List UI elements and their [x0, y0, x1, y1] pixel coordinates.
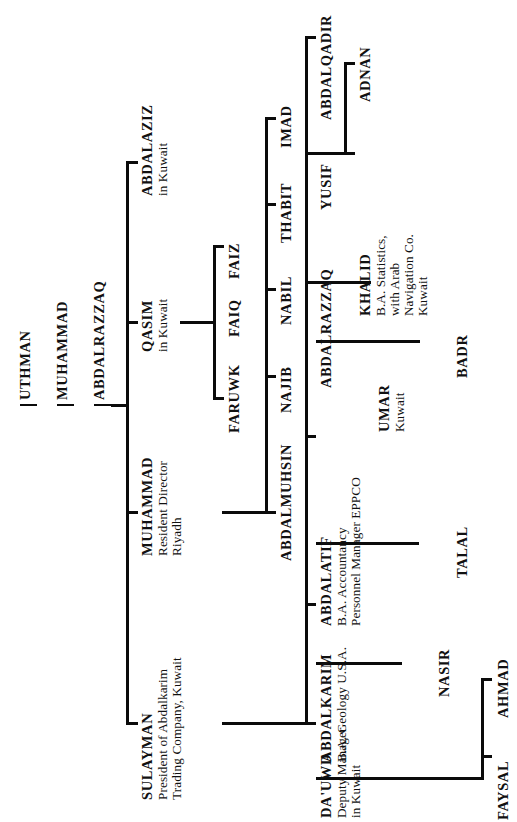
- tick-abdalaziz: [126, 161, 138, 164]
- tick-ahmad: [481, 678, 492, 681]
- label-badr: BADR: [455, 335, 471, 379]
- label-abdalatif: ABDALATIF B.A. Accountancy Personnel Man…: [319, 477, 363, 626]
- label-faiz: FAIZ: [227, 243, 243, 279]
- label-khalid: KHALID B.A. Statistics, with Arab Naviga…: [358, 234, 430, 316]
- tick-faruwk: [213, 397, 224, 400]
- tick-qasim: [126, 321, 138, 324]
- family-tree-diagram: UTHMAN MUHAMMAD ABDALRAZZAQ ABDALAZIZ in…: [0, 0, 517, 822]
- label-muhammad-root: MUHAMMAD: [55, 301, 71, 400]
- label-abdalrazzaq: ABDALRAZZAQ: [319, 269, 335, 388]
- tick-yusif: [305, 152, 316, 155]
- label-nasir: NASIR: [437, 649, 453, 697]
- tick-thabit: [265, 203, 276, 206]
- label-qasim: QASIM in Kuwait: [140, 299, 170, 352]
- label-faruwk: FARUWK: [227, 364, 243, 433]
- label-abdalqadir: ABDALQADIR: [319, 15, 335, 120]
- label-umar: UMAR Kuwait: [377, 384, 407, 432]
- label-ahmad: AHMAD: [496, 659, 512, 718]
- bracket-sulayman-children: [305, 36, 308, 724]
- tick-imad: [265, 117, 276, 120]
- tick-abdalatif: [305, 435, 316, 438]
- tick-abdalrazzaq: [305, 281, 316, 284]
- tick-khalid: [344, 152, 355, 155]
- label-abdalrazzaq-root: ABDALRAZZAQ: [92, 281, 108, 400]
- connector-qasim-to-children: [180, 321, 215, 324]
- connector-abdalrazzaq-root-stem: [94, 404, 111, 406]
- label-faiq: FAIQ: [227, 299, 243, 337]
- label-adnan: ADNAN: [358, 47, 374, 102]
- bracket-generation-1: [126, 161, 129, 724]
- tick-dauwd: [305, 722, 316, 725]
- connector-muhammad-root-stem: [57, 404, 74, 406]
- tick-faysal: [481, 755, 492, 758]
- label-thabit: THABIT: [279, 183, 295, 243]
- tick-abdalmuhsin: [265, 511, 276, 514]
- tick-abdalkarim: [305, 603, 316, 606]
- connector-uthman-stem: [20, 404, 37, 406]
- tick-adnan-top: [344, 62, 355, 65]
- bracket-dauwd-children: [481, 678, 484, 779]
- label-faysal: FAYSAL: [496, 761, 512, 820]
- bracket-yusif-children: [344, 62, 347, 154]
- tick-najib: [265, 375, 276, 378]
- label-dauwd: DA'UWD Deputy Manager in Kuwait: [319, 728, 363, 818]
- connector-yusif-to-children: [316, 152, 346, 155]
- tick-abdalqadir: [305, 36, 316, 39]
- label-muhammad: MUHAMMAD Resident Director Riyadh: [140, 457, 184, 556]
- label-yusif: YUSIF: [319, 163, 335, 210]
- connector-muhammad-to-children: [222, 511, 268, 514]
- bracket-qasim-children: [213, 245, 216, 399]
- label-nabil: NABIL: [279, 276, 295, 325]
- tick-faiz: [213, 245, 224, 248]
- bracket-muhammad-children: [265, 117, 268, 513]
- label-uthman: UTHMAN: [18, 330, 34, 400]
- label-sulayman: SULAYMAN President of Abdalkarim Trading…: [140, 657, 184, 800]
- label-najib: NAJIB: [279, 366, 295, 413]
- tick-nabil: [265, 288, 276, 291]
- label-talal: TALAL: [455, 526, 471, 578]
- connector-sulayman-to-children: [222, 722, 307, 725]
- label-abdalaziz: ABDALAZIZ in Kuwait: [140, 104, 170, 196]
- tick-sulayman: [126, 722, 138, 725]
- label-imad: IMAD: [279, 105, 295, 148]
- tick-muhammad: [126, 511, 138, 514]
- label-abdalmuhsin: ABDALMUHSIN: [279, 444, 295, 561]
